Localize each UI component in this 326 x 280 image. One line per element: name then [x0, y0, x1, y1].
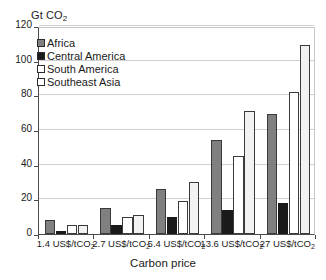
- x-axis-labels: 1.4 US$/tCO22.7 US$/tCO25.4 US$/tCO213.6…: [0, 238, 326, 254]
- bar-africa[interactable]: [211, 140, 222, 234]
- x-axis-label-subscript: 2: [311, 243, 315, 250]
- y-axis-title-subscript: 2: [63, 14, 68, 23]
- bar-central-america[interactable]: [167, 217, 178, 234]
- bar-southeast-asia[interactable]: [133, 215, 144, 234]
- bar-south-america[interactable]: [289, 92, 300, 234]
- x-axis-label: 13.6 US$/tCO2: [200, 238, 263, 250]
- x-axis-label-text: 5.4 US$/tCO: [148, 238, 202, 249]
- y-tick-label: 80: [21, 89, 32, 99]
- x-axis-label: 1.4 US$/tCO2: [37, 238, 95, 250]
- legend-item-africa[interactable]: Africa: [37, 36, 125, 49]
- bar-south-america[interactable]: [233, 156, 244, 234]
- bar-group: [150, 28, 205, 234]
- bar-group: [205, 28, 260, 234]
- legend-item-label: Africa: [47, 37, 75, 49]
- bar-south-america[interactable]: [178, 201, 189, 234]
- x-axis-label-text: 13.6 US$/tCO: [200, 238, 259, 249]
- y-axis-title-text: Gt CO: [31, 9, 63, 21]
- legend-item-central-america[interactable]: Central America: [37, 49, 125, 62]
- bar-africa[interactable]: [45, 220, 56, 234]
- bar-south-america[interactable]: [122, 217, 133, 234]
- y-axis-title: Gt CO2: [31, 9, 67, 23]
- bar-chart: Gt CO2 020406080100120 AfricaCentral Ame…: [0, 0, 326, 280]
- legend-item-south-america[interactable]: South America: [37, 62, 125, 75]
- bar-southeast-asia[interactable]: [244, 111, 255, 234]
- bar-southeast-asia[interactable]: [300, 45, 311, 234]
- bar-central-america[interactable]: [278, 203, 289, 234]
- y-tick-label: 0: [26, 228, 32, 238]
- x-axis-label-text: 2.7 US$/tCO: [92, 238, 146, 249]
- y-tick-label: 40: [21, 159, 32, 169]
- bar-group: [261, 28, 316, 234]
- legend-item-label: Central America: [47, 50, 125, 62]
- bar-southeast-asia[interactable]: [78, 225, 89, 234]
- bar-central-america[interactable]: [56, 231, 67, 234]
- y-tick-label: 60: [21, 124, 32, 134]
- bar-africa[interactable]: [100, 208, 111, 234]
- bar-central-america[interactable]: [111, 225, 122, 234]
- legend-swatch-icon: [37, 65, 45, 73]
- gridline: [39, 25, 314, 26]
- legend-item-label: Southeast Asia: [47, 76, 120, 88]
- x-axis-title: Carbon price: [0, 257, 326, 270]
- x-axis-label-text: 1.4 US$/tCO: [37, 238, 91, 249]
- legend-item-label: South America: [47, 63, 119, 75]
- x-axis-label-text: 27 US$/tCO: [260, 238, 311, 249]
- bar-africa[interactable]: [156, 189, 167, 234]
- legend-swatch-icon: [37, 52, 45, 60]
- x-axis-label: 2.7 US$/tCO2: [92, 238, 150, 250]
- bar-southeast-asia[interactable]: [189, 182, 200, 234]
- y-tick-label: 120: [15, 20, 32, 30]
- legend-item-southeast-asia[interactable]: Southeast Asia: [37, 75, 125, 88]
- x-axis-label: 5.4 US$/tCO2: [148, 238, 206, 250]
- legend: AfricaCentral AmericaSouth AmericaSouthe…: [37, 36, 125, 88]
- y-axis: 020406080100120: [0, 27, 38, 235]
- y-tick-label: 100: [15, 55, 32, 65]
- y-tick-label: 20: [21, 193, 32, 203]
- bar-central-america[interactable]: [222, 210, 233, 234]
- bar-africa[interactable]: [267, 114, 278, 234]
- legend-swatch-icon: [37, 39, 45, 47]
- x-axis-label: 27 US$/tCO2: [260, 238, 315, 250]
- legend-swatch-icon: [37, 78, 45, 86]
- bar-south-america[interactable]: [67, 225, 78, 234]
